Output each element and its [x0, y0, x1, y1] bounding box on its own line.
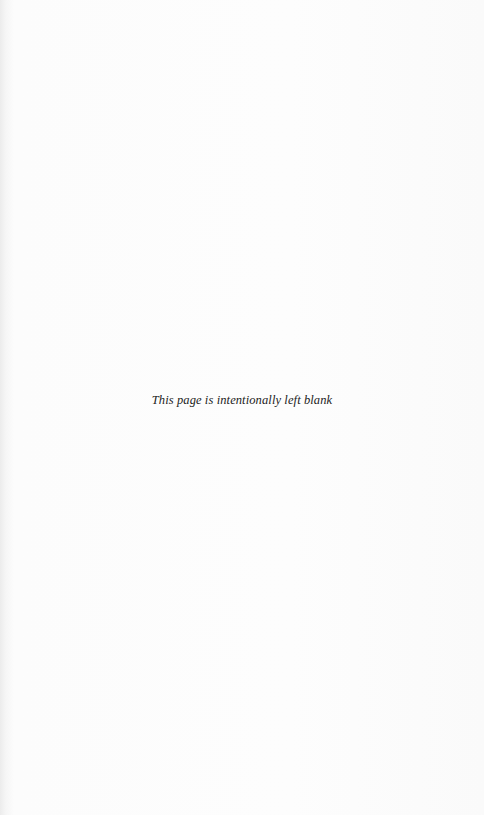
blank-page-notice: This page is intentionally left blank: [0, 393, 484, 408]
blank-book-page: This page is intentionally left blank: [0, 0, 484, 815]
